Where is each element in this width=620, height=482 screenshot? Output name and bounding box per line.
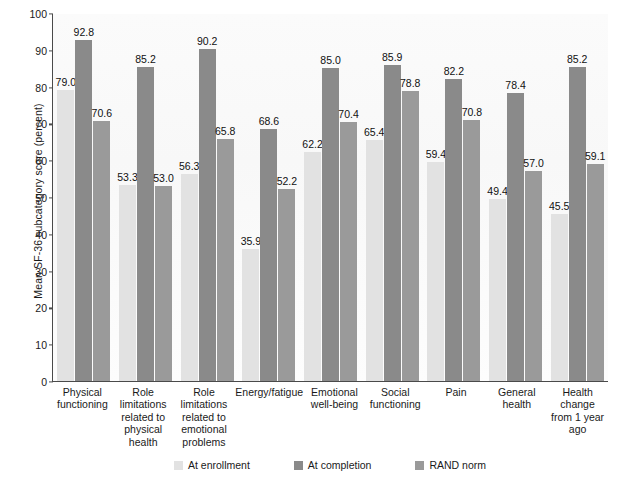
bar-value-label: 56.3 [179,160,199,172]
bar-slot: 92.8 [75,14,92,381]
bar[interactable] [278,189,295,381]
bar-value-label: 59.1 [585,150,605,162]
bar[interactable] [242,249,259,381]
bar-slot: 82.2 [445,14,462,381]
bar[interactable] [587,164,604,381]
bar[interactable] [217,139,234,381]
sf36-grouped-bar-chart: Mean SF-36 subcategory score (percent) 1… [0,0,620,482]
x-axis-label-7: Pain [426,386,487,448]
bar-slot: 85.9 [384,14,401,381]
bar-slot: 53.0 [155,14,172,381]
x-axis-label-8: Generalhealth [486,386,547,448]
bar[interactable] [366,140,383,381]
chart-legend: At enrollmentAt completionRAND norm [52,459,608,471]
bar-value-label: 65.4 [364,126,384,138]
bar[interactable] [445,79,462,381]
bar[interactable] [199,49,216,381]
bar[interactable] [260,129,277,381]
bar-slot: 65.4 [366,14,383,381]
x-axis-label-4: Energy/fatigue [234,386,304,448]
bar-value-label: 49.4 [487,185,507,197]
legend-item[interactable]: At completion [294,459,372,471]
bar-value-label: 92.8 [74,26,94,38]
x-axis-label-5: Emotionalwell-being [304,386,365,448]
bar-slot: 85.0 [322,14,339,381]
legend-label: RAND norm [429,459,486,471]
bar-slot: 70.6 [93,14,110,381]
bar-value-label: 57.0 [523,157,543,169]
legend-swatch-icon [294,461,303,470]
y-axis-tick-mark [49,381,54,382]
bar-group: 79.092.870.6 [53,14,115,381]
legend-item[interactable]: RAND norm [415,459,486,471]
bar-slot: 90.2 [199,14,216,381]
legend-label: At enrollment [188,459,250,471]
bar-value-label: 70.4 [338,108,358,120]
bar[interactable] [507,93,524,382]
bar[interactable] [463,120,480,381]
bar-group: 45.585.259.1 [546,14,608,381]
x-axis-label-2: Rolelimitationsrelated tophysicalhealth [113,386,174,448]
bar-value-label: 70.6 [92,107,112,119]
bar-group: 53.385.253.0 [115,14,177,381]
bar[interactable] [489,199,506,381]
bar[interactable] [57,90,74,381]
bar[interactable] [402,91,419,381]
legend-item[interactable]: At enrollment [174,459,250,471]
bar-value-label: 85.2 [567,53,587,65]
bar-value-label: 65.8 [215,125,235,137]
bar-value-label: 62.2 [302,138,322,150]
bar-slot: 59.4 [427,14,444,381]
bar-slot: 35.9 [242,14,259,381]
bar-slot: 68.6 [260,14,277,381]
bar[interactable] [340,122,357,381]
bar-value-label: 53.0 [153,172,173,184]
bar-value-label: 68.6 [259,115,279,127]
bar-value-label: 53.3 [117,171,137,183]
bar-group: 56.390.265.8 [176,14,238,381]
bar[interactable] [93,121,110,381]
bar-value-label: 35.9 [241,235,261,247]
bar-value-label: 82.2 [444,65,464,77]
legend-swatch-icon [174,461,183,470]
bar-group: 65.485.978.8 [361,14,423,381]
bar-value-label: 59.4 [426,148,446,160]
bar-group: 62.285.070.4 [300,14,362,381]
bar-value-label: 85.2 [135,53,155,65]
bar-slot: 78.4 [507,14,524,381]
bar-value-label: 45.5 [549,200,569,212]
bar-value-label: 79.0 [56,76,76,88]
bar[interactable] [155,186,172,381]
bar[interactable] [137,67,154,381]
bar-value-label: 78.4 [505,79,525,91]
x-axis-label-6: Socialfunctioning [365,386,426,448]
bar-slot: 85.2 [137,14,154,381]
bar[interactable] [551,214,568,381]
bar-slot: 53.3 [119,14,136,381]
bar[interactable] [181,174,198,381]
bar-slot: 52.2 [278,14,295,381]
bar-value-label: 85.9 [382,51,402,63]
bar-slot: 56.3 [181,14,198,381]
bar[interactable] [525,171,542,381]
legend-swatch-icon [415,461,424,470]
bar[interactable] [304,152,321,381]
bar[interactable] [427,162,444,381]
bar-group: 59.482.270.8 [423,14,485,381]
bar[interactable] [569,67,586,381]
bar[interactable] [75,40,92,382]
bar[interactable] [322,68,339,381]
plot-area: 1009080706050403020100 79.092.870.653.38… [52,14,608,382]
x-axis-label-9: Health changefrom 1 yearago [547,386,608,448]
bar-slot: 45.5 [551,14,568,381]
bar-slot: 59.1 [587,14,604,381]
bar-slot: 62.2 [304,14,321,381]
bar[interactable] [119,185,136,381]
bar-value-label: 78.8 [400,77,420,89]
bar-slot: 85.2 [569,14,586,381]
bar[interactable] [384,65,401,381]
bar-value-label: 52.2 [277,175,297,187]
bar-slot: 49.4 [489,14,506,381]
x-axis-category-labels: PhysicalfunctioningRolelimitationsrelate… [52,386,608,448]
bar-group: 35.968.652.2 [238,14,300,381]
